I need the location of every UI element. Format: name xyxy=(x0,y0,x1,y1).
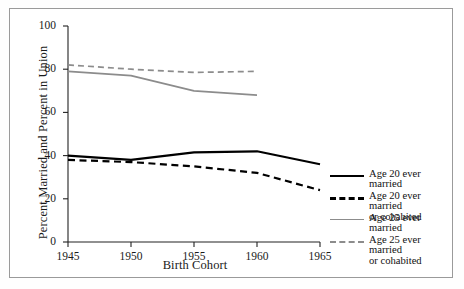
legend-item-label: Age 25 ever married xyxy=(369,212,454,234)
x-axis-ticks xyxy=(68,242,320,247)
legend-line-swatch-icon xyxy=(330,234,364,250)
legend-label-line1: Age 25 ever married xyxy=(369,212,421,233)
legend-line-swatch-icon xyxy=(330,212,364,228)
data-series-group xyxy=(68,65,320,190)
data-line-series xyxy=(68,65,257,73)
legend-line-swatch-icon xyxy=(330,190,364,206)
legend-label-line2: or cohabited xyxy=(369,255,422,266)
data-line-series xyxy=(68,160,320,190)
legend-label-line1: Age 25 ever married xyxy=(369,234,421,255)
legend-label-line1: Age 20 ever married xyxy=(369,168,421,189)
legend-item-label: Age 20 ever married xyxy=(369,168,454,190)
legend-item: Age 25 ever married xyxy=(330,212,454,232)
legend-item: Age 25 ever married or cohabited xyxy=(330,234,454,254)
legend-item: Age 20 ever married or cohabited xyxy=(330,190,454,210)
y-axis-title: Percent Married and Percent in Union xyxy=(36,28,51,258)
data-line-series xyxy=(68,71,257,95)
y-axis-ticks xyxy=(63,26,68,242)
axes xyxy=(63,26,320,247)
legend-item-label: Age 25 ever married or cohabited xyxy=(369,234,454,266)
x-axis-title: Birth Cohort xyxy=(140,258,250,273)
legend-line-swatch-icon xyxy=(330,168,364,184)
legend-item: Age 20 ever married xyxy=(330,168,454,188)
chart-figure: 020406080100 19451950195519601965 Percen… xyxy=(0,0,464,289)
chart-legend: Age 20 ever married Age 20 ever married … xyxy=(330,168,454,256)
x-tick-label: 1945 xyxy=(46,250,90,262)
legend-label-line1: Age 20 ever married xyxy=(369,190,421,211)
